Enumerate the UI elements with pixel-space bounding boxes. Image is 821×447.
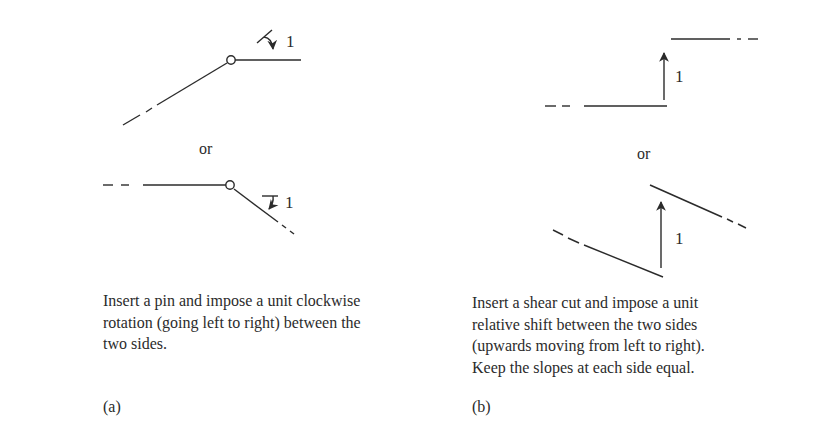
description-line: relative shift between the two sides: [472, 314, 792, 336]
panel-a-or-label: or: [199, 140, 212, 158]
description-line: two sides.: [103, 333, 423, 355]
panel-b-bottom-diagram: [553, 185, 746, 277]
panel-a-top-rotation-label: 1: [286, 32, 295, 51]
dash-segment: [568, 238, 579, 243]
dash-segment: [146, 108, 152, 112]
description-line: Insert a shear cut and impose a unit: [472, 292, 792, 314]
panel-b-bottom-shift-label: 1: [675, 229, 684, 248]
description-line: Keep the slopes at each side equal.: [472, 357, 792, 379]
panel-b-top-diagram: [545, 39, 758, 106]
pin-hinge-icon: [227, 56, 235, 64]
dash-segment: [282, 225, 286, 228]
panel-b-or-label: or: [637, 145, 650, 163]
description-line: rotation (going left to right) between t…: [103, 312, 423, 334]
clockwise-rotation-arrow-icon: [269, 196, 273, 209]
panel-b-top-shift-label: 1: [675, 67, 684, 86]
description-line: Insert a pin and impose a unit clockwise: [103, 290, 423, 312]
panel-a-top-diagram: [123, 30, 301, 125]
dash-segment: [738, 224, 746, 228]
panel-a-bottom-rotation-label: 1: [285, 193, 294, 212]
dash-segment: [727, 219, 733, 222]
clockwise-rotation-arrow-icon: [264, 37, 273, 49]
dash-segment: [123, 115, 140, 125]
panel-a-description: Insert a pin and impose a unit clockwise…: [103, 290, 423, 355]
dash-segment: [290, 231, 294, 234]
panel-b-description: Insert a shear cut and impose a unit rel…: [472, 292, 792, 378]
dash-segment: [553, 230, 563, 235]
panel-a-caption: (a): [103, 398, 121, 416]
pin-hinge-icon: [226, 181, 234, 189]
panel-b-caption: (b): [472, 398, 491, 416]
left-member: [584, 245, 663, 277]
description-line: (upwards moving from left to right).: [472, 335, 792, 357]
diagram-canvas: 1 1 1 1: [0, 0, 821, 447]
inclined-member: [157, 63, 227, 105]
panel-a-bottom-diagram: [103, 181, 294, 234]
